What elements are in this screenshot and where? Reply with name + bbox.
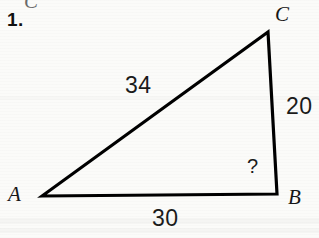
side-length-label-ab: 30 [152,205,179,232]
vertex-label-b: B [288,185,301,210]
triangle-drawing [0,0,319,238]
vertex-label-c: C [275,2,289,27]
geometry-figure: C 1. A B C 34 20 30 ? [0,0,319,238]
side-length-label-bc: 20 [286,93,313,120]
triangle-outline [42,32,277,196]
side-length-label-ac: 34 [125,72,152,99]
vertex-label-a: A [8,182,21,207]
unknown-angle-marker: ? [247,155,258,178]
